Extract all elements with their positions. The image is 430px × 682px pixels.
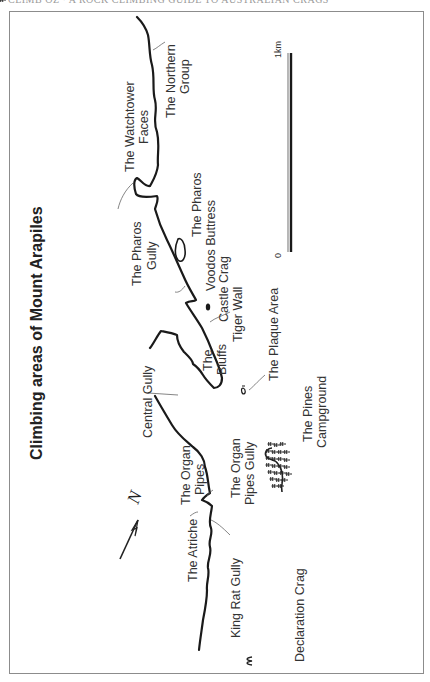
label-tiger-wall: Tiger Wall [231,287,245,342]
label-voodos-buttress: Voodos Buttress [204,200,218,291]
svg-text:N: N [123,487,147,507]
castle-crag-marker [206,304,210,311]
ridge-line-south [155,396,212,650]
pointer-king-rat [211,520,230,535]
scale-bar: 1km 0 [273,41,291,258]
label-organ-pipes-1: The Organ [179,445,193,505]
pointer-voodos [175,286,185,292]
map-title: Climbing areas of Mount Arapiles [28,206,45,460]
label-bluffs-1: The [201,349,215,371]
label-atriche: The Atriche [186,519,200,582]
label-organ-pipes-gully-2: Pipes Gully [243,441,257,505]
scale-start-label: 0 [273,253,283,258]
label-pharos-gully-2: Gully [145,241,159,270]
label-pharos-gully-1: The Pharos [130,221,144,286]
label-organ-pipes-gully-1: The Organ [229,438,243,498]
label-pharos: The Pharos [190,172,204,237]
declaration-crag-marker [247,657,252,665]
label-organ-pipes-2: Pipes [193,464,207,495]
climbing-map: Climbing areas of Mount Arapiles N 1km 0 [0,0,430,682]
label-northern-group-1: The Northern [164,44,178,118]
pointer-plaque [249,375,265,390]
label-northern-group-2: Group [178,59,192,94]
label-plaque-area: The Plaque Area [267,288,281,381]
label-central-gully: Central Gully [141,365,155,438]
label-castle-crag: Castle Crag [217,256,231,322]
scale-end-label: 1km [273,41,283,58]
label-pines-2: Campground [315,376,329,448]
label-king-rat-gully: King Rat Gully [229,557,243,638]
label-pines-1: The Pines [301,386,315,442]
label-bluffs-2: Bluffs [215,344,229,375]
plaque-marker [242,386,246,394]
label-watchtower-1: The Watchtower [123,81,137,172]
north-arrow-icon: N [120,487,146,559]
voodos-buttress-outline [175,239,185,262]
label-declaration-crag: Declaration Crag [293,568,307,662]
pointer-atriche [190,512,198,516]
pointer-pharos-gully [118,183,133,209]
label-watchtower-2: Faces [137,110,151,144]
